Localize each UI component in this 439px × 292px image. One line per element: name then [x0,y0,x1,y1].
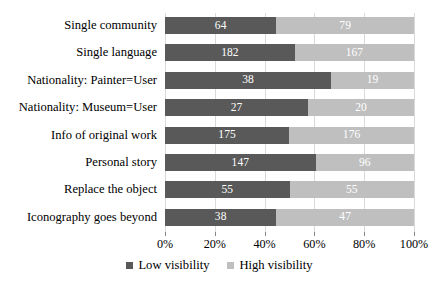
x-tick-label-80pct: 80% [353,237,375,252]
x-tick-label-0pct: 0% [157,237,173,252]
x-tick-label-60pct: 60% [303,237,325,252]
bar-value-label: 64 [165,20,276,32]
bar-value-label: 96 [316,157,414,169]
bar-value-label: 176 [289,129,414,141]
y-axis-label-replace-the-object: Replace the object [64,181,157,198]
bar-value-label: 38 [165,75,331,87]
x-tick-mark [414,232,415,236]
x-tick-mark [314,232,315,236]
bar-segment-high-visibility: 19 [331,72,414,89]
x-tick-mark [215,232,216,236]
bar-segment-high-visibility: 20 [308,99,414,116]
x-tick-label-40pct: 40% [253,237,275,252]
bar-segment-low-visibility: 64 [165,17,276,34]
bar-value-label: 19 [331,75,414,87]
bar-value-label: 20 [308,102,414,114]
legend-label: High visibility [239,258,312,273]
legend-item-high-visibility[interactable]: High visibility [227,258,312,273]
bar-value-label: 175 [165,129,289,141]
bar-value-label: 47 [276,212,414,224]
bar-row: 5555 [165,181,414,198]
bar-segment-low-visibility: 38 [165,72,331,89]
legend-label: Low visibility [138,258,209,273]
chart-legend: Low visibilityHigh visibility [0,258,439,273]
bar-row: 6479 [165,17,414,34]
bar-row: 14796 [165,154,414,171]
bar-value-label: 182 [165,47,295,59]
x-tick-mark [265,232,266,236]
bar-value-label: 38 [165,212,276,224]
bar-value-label: 27 [165,102,308,114]
stacked-bar-chart: Single communitySingle languageNationali… [0,0,439,292]
bar-value-label: 79 [276,20,414,32]
bar-segment-low-visibility: 147 [165,154,316,171]
bar-segment-low-visibility: 55 [165,181,290,198]
y-axis-label-nationality-painter-user: Nationality: Painter=User [27,72,157,89]
x-axis-tick-marks [165,232,414,237]
bar-segment-high-visibility: 167 [295,44,414,61]
bar-segment-low-visibility: 175 [165,127,289,144]
bar-segment-low-visibility: 38 [165,209,276,226]
y-axis-label-single-community: Single community [64,17,157,34]
bar-value-label: 55 [165,184,290,196]
x-tick-mark [364,232,365,236]
x-tick-label-20pct: 20% [204,237,226,252]
bar-row: 2720 [165,99,414,116]
bar-value-label: 147 [165,157,316,169]
y-axis-label-iconography-goes-beyond: Iconography goes beyond [27,209,157,226]
bar-segment-high-visibility: 176 [289,127,414,144]
bar-row: 3847 [165,209,414,226]
bar-value-label: 55 [290,184,415,196]
bar-row: 175176 [165,127,414,144]
legend-item-low-visibility[interactable]: Low visibility [126,258,209,273]
legend-swatch-icon [126,262,133,269]
bar-segment-high-visibility: 55 [290,181,415,198]
bar-segment-low-visibility: 27 [165,99,308,116]
y-axis-label-personal-story: Personal story [85,154,157,171]
bar-segment-high-visibility: 79 [276,17,414,34]
bar-rows: 6479182167381927201751761479655553847 [165,13,414,232]
bar-value-label: 167 [295,47,414,59]
y-axis-category-labels: Single communitySingle languageNationali… [0,13,161,232]
bar-segment-high-visibility: 47 [276,209,414,226]
y-axis-label-single-language: Single language [76,44,157,61]
gridline-100pct [414,13,415,232]
y-axis-label-info-of-original-work: Info of original work [51,127,157,144]
x-tick-label-100pct: 100% [400,237,428,252]
plot-area: 6479182167381927201751761479655553847 [165,13,414,232]
x-tick-mark [165,232,166,236]
y-axis-label-nationality-museum-user: Nationality: Museum=User [19,99,157,116]
bar-row: 182167 [165,44,414,61]
bar-row: 3819 [165,72,414,89]
legend-swatch-icon [227,262,234,269]
bar-segment-low-visibility: 182 [165,44,295,61]
bar-segment-high-visibility: 96 [316,154,414,171]
